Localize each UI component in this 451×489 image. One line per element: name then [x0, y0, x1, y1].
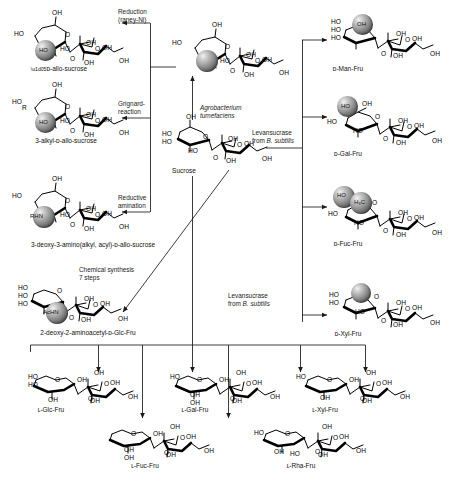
atom-label-oh-b3: OH [102, 117, 112, 124]
atom-label-o-d3: O [93, 302, 98, 309]
atom-label-ho-c1: HO [12, 193, 22, 200]
atom-label-oh-b5: OH [119, 130, 129, 137]
reaction-label-grignard: Grignard- reaction [118, 100, 145, 116]
atom-label-o-e2: O [230, 68, 235, 75]
atom-label-oh-j3: OH [393, 322, 403, 329]
atom-label-ho-ball-gal: HO [341, 103, 350, 109]
atom-label-ho-ball-fuc: HO [337, 192, 346, 198]
atom-label-oh-c5: OH [119, 224, 129, 231]
atom-label-oh-c3: OH [102, 211, 112, 218]
atom-label-ho-g1: HO [331, 19, 341, 26]
reaction-label-reduction-line1: Reduction [118, 8, 147, 16]
compound-label-amino-allo-sucrose-text: 3-deoxy-3-amino(alkyl, acyl)-ᴅ-allo-sucr… [31, 241, 155, 248]
compound-label-man-fru-text: ᴅ-Man-Fru [333, 65, 363, 72]
atom-label-o-f3: O [237, 142, 242, 149]
atom-label-ho-h2: HO [353, 128, 363, 135]
atom-label-o-j2: O [381, 318, 386, 325]
atom-label-ho-b1: HO [12, 99, 22, 106]
compound-label-l-rha-fru-text: ʟ-Rha-Fru [287, 462, 316, 469]
reaction-label-grignard-line2: reaction [118, 108, 145, 116]
atom-label-oh-e4: OH [244, 72, 254, 79]
atom-label-oh-l1: OH [219, 377, 229, 384]
atom-label-oh-m5: OH [362, 398, 372, 405]
atom-label-oh-m1: OH [349, 377, 359, 384]
atom-label-ho-j3: HO [355, 309, 365, 316]
atom-label-ho-k1: HO [28, 374, 38, 381]
atom-label-o-k3: O [104, 381, 109, 388]
reaction-label-reduction: Reduction (raney-Ni) [118, 8, 147, 24]
atom-label-oh-l7: OH [270, 394, 280, 401]
compound-label-gal-fru-text: ᴅ-Gal-Fru [334, 150, 362, 157]
atom-label-ho-i1: HO [328, 211, 338, 218]
atom-label-ho-e1: HO [172, 40, 182, 47]
compound-label-l-gal-fru: ʟ-Gal-Fru [162, 406, 228, 414]
compound-label-l-xyl-fru: ʟ-Xyl-Fru [292, 406, 358, 414]
atom-label-oh-d4: OH [118, 316, 128, 323]
atom-label-oh-i3: OH [396, 232, 406, 239]
compound-label-fuc-fru-text: ᴅ-Fuc-Fru [334, 240, 363, 247]
levansucrase-top-species: B. subtilis [267, 137, 294, 144]
atom-label-oh-n3: OH [124, 455, 134, 462]
atom-label-achn: AcHN [43, 309, 59, 315]
atom-label-oh-c4: OH [84, 226, 94, 233]
atom-label-oh-l2: OH [190, 392, 200, 399]
reaction-label-reductive-amination: Reductive amination [118, 194, 146, 210]
atom-label-o-j1: O [374, 294, 379, 301]
atom-label-r: R [22, 105, 27, 112]
atom-label-oh-l5: OH [252, 380, 262, 387]
atom-label-o-i2: O [383, 228, 388, 235]
atom-label-ho-e2: HO [220, 58, 230, 65]
atom-label-ho-d3: HO [18, 301, 28, 308]
atom-label-oh-g2: OH [412, 36, 422, 43]
atom-label-ho-o2: HO [290, 451, 300, 458]
atom-label-oh-n5: OH [186, 434, 196, 441]
atom-label-oh-m4: OH [382, 380, 392, 387]
atom-label-o-c3: O [95, 212, 100, 219]
atom-label-o-m1: O [327, 377, 332, 384]
atom-label-oh-o3: OH [339, 434, 349, 441]
reaction-scheme-figure: HO OH HO O HO O OH O OH OH OH \u1d05ᴅ-al… [0, 0, 451, 489]
reaction-label-agrobacterium-line2: tumefaciens [200, 112, 242, 120]
highlight-sphere-center [196, 50, 218, 72]
molecule-aminoacetyl-glc-fru [18, 282, 142, 332]
atom-label-rhn: RHN [30, 213, 43, 219]
atom-label-oh-i2: OH [414, 215, 424, 222]
atom-label-h3c-ball-fuc: H₃C [354, 199, 365, 205]
atom-label-o-o1: O [285, 431, 290, 438]
atom-label-ho-j2: HO [329, 300, 339, 307]
atom-label-oh-j4: OH [430, 320, 440, 327]
atom-label-oh-g4: OH [430, 51, 440, 58]
atom-label-o-f: O [95, 46, 100, 53]
reaction-label-levansucrase-top: Levansucrase from B. subtilis [252, 129, 294, 145]
compound-label-sucrose: Sucrose [160, 167, 208, 175]
reaction-label-levansucrase-bottom-line2: from B. subtilis [228, 300, 270, 308]
compound-label-fuc-fru: ᴅ-Fuc-Fru [317, 240, 379, 248]
atom-label-o-d2: O [69, 315, 74, 322]
levansucrase-bottom-species: B. subtilis [243, 300, 270, 307]
molecule-man-fru [330, 18, 448, 66]
atom-label-ho-i2: HO [354, 220, 364, 227]
atom-label-ho2: HO [60, 46, 70, 53]
compound-label-aminoacetyl-glc-fru: 2-deoxy-2-aminoacetyl-ᴅ-Glc-Fru [0, 329, 176, 337]
reaction-label-reductive-amination-line1: Reductive [118, 194, 146, 202]
atom-label-oh-ball-man: OH [357, 21, 366, 27]
compound-label-allo-sucrose-text: ᴅ-allo-sucrose [46, 65, 87, 72]
atom-label-oh-g3: OH [393, 53, 403, 60]
atom-label-ho-j1: HO [329, 292, 339, 299]
atom-label-oh-n7: OH [204, 448, 214, 455]
highlight-sphere-xyl-5 [351, 283, 371, 303]
atom-label-ho-h1: HO [327, 119, 337, 126]
atom-label-ho-f2: HO [162, 139, 172, 146]
compound-label-alkyl-allo-sucrose-text: 3-alkyl-ᴅ-allo-sucrose [35, 137, 97, 144]
atom-label-ho-f3: HO [188, 148, 198, 155]
atom-label-o-k1: O [55, 377, 60, 384]
compound-label-l-fuc-fru-text: ʟ-Fuc-Fru [131, 462, 159, 469]
atom-label-ho-m1: HO [296, 374, 306, 381]
reaction-label-levansucrase-top-line2: from B. subtilis [252, 137, 294, 145]
atom-label-oh-c1: OH [52, 176, 62, 183]
atom-label-oh-d2: OH [100, 301, 110, 308]
atom-label-o-h3: O [407, 124, 412, 131]
atom-label-ho-o1: HO [254, 430, 264, 437]
atom-label-oh-m3: OH [366, 370, 376, 377]
atom-label-oh-m2: OH [320, 395, 330, 402]
